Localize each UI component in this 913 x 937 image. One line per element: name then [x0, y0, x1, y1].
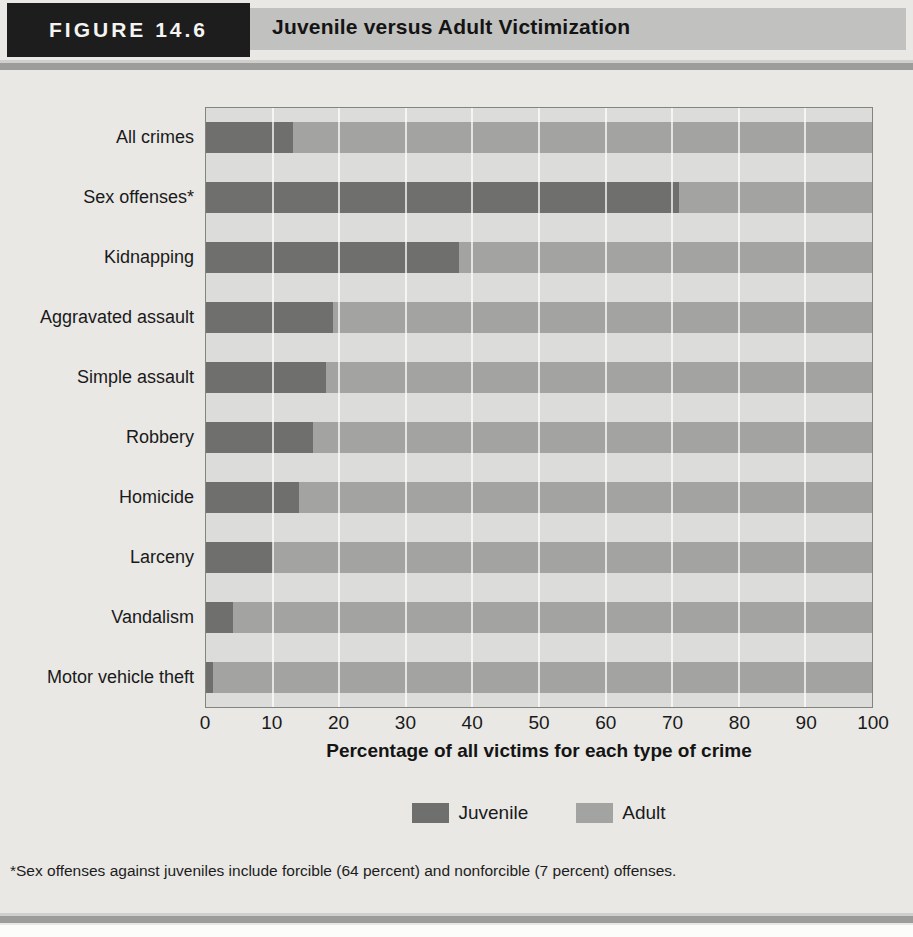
category-label: All crimes — [0, 107, 194, 167]
top-rule-divider — [0, 60, 913, 70]
juvenile-segment — [206, 242, 459, 273]
adult-segment — [313, 422, 872, 453]
x-tick-label: 90 — [796, 712, 817, 734]
adult-segment — [293, 122, 872, 153]
figure-label-box: FIGURE 14.6 — [7, 3, 250, 57]
stacked-bar — [206, 182, 872, 213]
category-label: Robbery — [0, 407, 194, 467]
bottom-rule-divider — [0, 913, 913, 923]
legend-item-adult: Adult — [576, 802, 665, 824]
stacked-bar — [206, 302, 872, 333]
x-tick-label: 10 — [261, 712, 282, 734]
stacked-bar — [206, 242, 872, 273]
juvenile-segment — [206, 482, 299, 513]
figure-label: FIGURE 14.6 — [49, 18, 208, 42]
adult-segment — [299, 482, 872, 513]
plot-area — [205, 107, 873, 708]
adult-segment — [679, 182, 872, 213]
category-label: Larceny — [0, 528, 194, 588]
x-tick-label: 0 — [200, 712, 211, 734]
stacked-bar — [206, 542, 872, 573]
juvenile-segment — [206, 422, 313, 453]
bar-row — [206, 527, 872, 587]
bar-row — [206, 467, 872, 527]
category-label: Motor vehicle theft — [0, 648, 194, 708]
x-tick-label: 80 — [729, 712, 750, 734]
category-labels: All crimesSex offenses*KidnappingAggrava… — [0, 107, 194, 708]
stacked-bar — [206, 602, 872, 633]
stacked-bar — [206, 362, 872, 393]
category-label: Kidnapping — [0, 227, 194, 287]
figure-panel: Juvenile versus Adult Victimization FIGU… — [0, 0, 913, 937]
juvenile-swatch — [412, 803, 449, 823]
adult-segment — [273, 542, 872, 573]
juvenile-segment — [206, 542, 273, 573]
stacked-bar — [206, 482, 872, 513]
legend-label-adult: Adult — [622, 802, 665, 824]
stacked-bar — [206, 422, 872, 453]
category-label: Homicide — [0, 468, 194, 528]
bar-row — [206, 408, 872, 468]
x-axis-label: Percentage of all victims for each type … — [205, 740, 873, 762]
adult-segment — [333, 302, 872, 333]
bar-row — [206, 108, 872, 168]
bar-row — [206, 647, 872, 707]
stacked-bar — [206, 662, 872, 693]
x-tick-label: 40 — [462, 712, 483, 734]
x-tick-label: 20 — [328, 712, 349, 734]
adult-swatch — [576, 803, 613, 823]
bar-row — [206, 288, 872, 348]
bar-row — [206, 168, 872, 228]
page-margin — [0, 925, 913, 937]
legend: Juvenile Adult — [205, 802, 873, 824]
x-tick-label: 70 — [662, 712, 683, 734]
juvenile-segment — [206, 122, 293, 153]
adult-segment — [233, 602, 872, 633]
x-tick-label: 100 — [857, 712, 889, 734]
adult-segment — [326, 362, 872, 393]
juvenile-segment — [206, 362, 326, 393]
adult-segment — [213, 662, 872, 693]
legend-item-juvenile: Juvenile — [412, 802, 528, 824]
juvenile-segment — [206, 182, 679, 213]
x-axis-ticks: 0102030405060708090100 — [205, 712, 873, 734]
bar-row — [206, 228, 872, 288]
x-tick-label: 60 — [595, 712, 616, 734]
legend-label-juvenile: Juvenile — [458, 802, 528, 824]
x-tick-label: 30 — [395, 712, 416, 734]
category-label: Vandalism — [0, 588, 194, 648]
bar-row — [206, 348, 872, 408]
adult-segment — [459, 242, 872, 273]
category-label: Simple assault — [0, 347, 194, 407]
figure-title: Juvenile versus Adult Victimization — [272, 15, 630, 39]
bar-row — [206, 587, 872, 647]
juvenile-segment — [206, 662, 213, 693]
juvenile-segment — [206, 602, 233, 633]
x-tick-label: 50 — [528, 712, 549, 734]
stacked-bar — [206, 122, 872, 153]
footnote: *Sex offenses against juveniles include … — [10, 862, 890, 880]
category-label: Aggravated assault — [0, 287, 194, 347]
juvenile-segment — [206, 302, 333, 333]
category-label: Sex offenses* — [0, 167, 194, 227]
